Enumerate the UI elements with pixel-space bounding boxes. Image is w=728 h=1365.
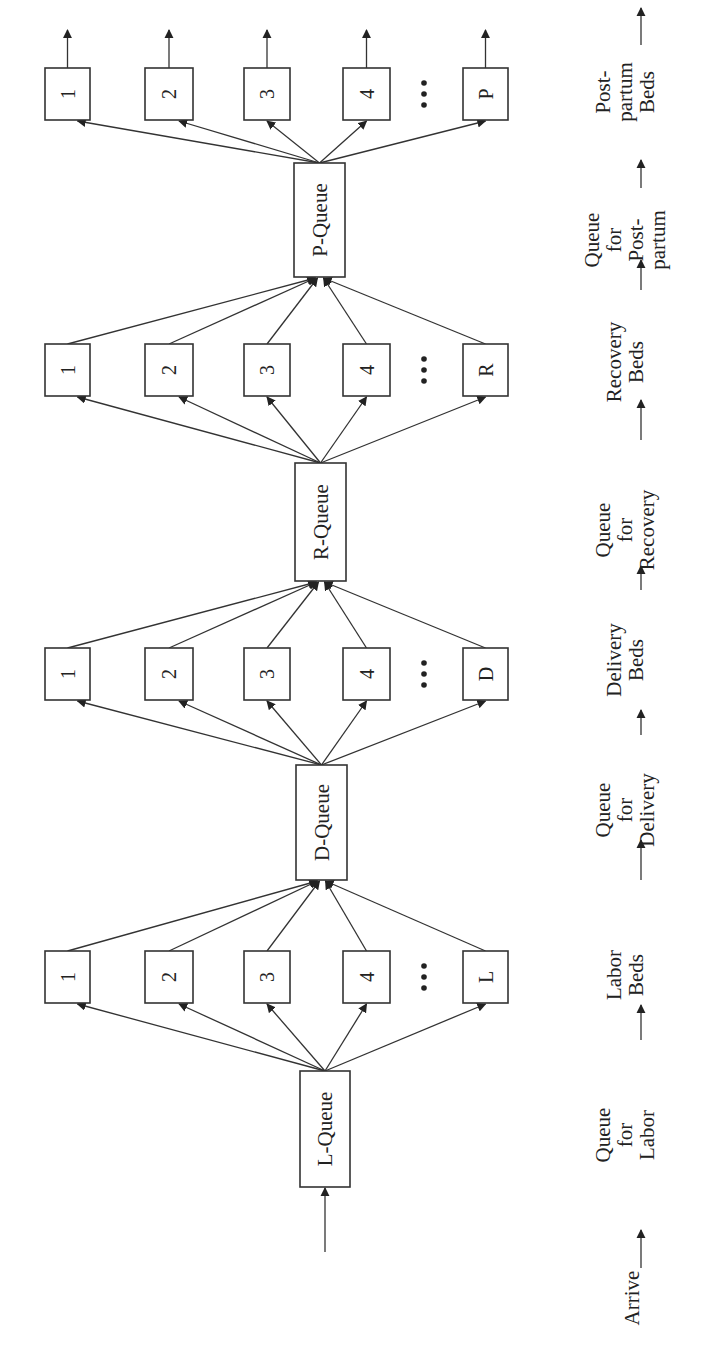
server-r-2: 2: [145, 344, 193, 396]
edge-server-3-to-dqueue: [267, 881, 320, 951]
queue-label: R-Queue: [309, 484, 333, 560]
server-label: 2: [158, 972, 180, 982]
flow-label-line: Post-: [624, 218, 648, 261]
server-l-4: 4: [343, 951, 390, 1003]
server-p-2: 2: [145, 68, 193, 120]
flow-label-4: DeliveryBeds: [602, 623, 648, 697]
r-queue-box: R-Queue: [295, 463, 346, 581]
server-l-L: L: [463, 951, 508, 1003]
flow-label-line: Recovery: [602, 321, 626, 402]
edge-rqueue-to-server-R: [321, 397, 486, 463]
server-label: 2: [158, 365, 180, 375]
server-label: R: [475, 363, 497, 377]
server-label: 4: [356, 972, 378, 982]
flow-label-line: Recovery: [635, 489, 659, 570]
edge-server-3-to-rqueue: [267, 582, 319, 648]
edge-dqueue-to-server-4: [322, 701, 367, 765]
server-d-2: 2: [145, 648, 193, 700]
ellipsis-icon: [421, 660, 427, 688]
flow-label-line: Labor: [602, 950, 626, 1000]
nodes-layer: 1234PP-Queue1234RR-Queue1234DD-Queue1234…: [45, 68, 508, 1187]
edge-pqueue-to-server-3: [267, 121, 320, 163]
flow-label-3: QueueforDelivery: [591, 773, 659, 847]
ellipsis-icon: [421, 356, 427, 384]
server-label: 4: [356, 89, 378, 99]
server-label: 2: [158, 89, 180, 99]
server-d-4: 4: [343, 648, 390, 700]
server-label: 1: [57, 972, 79, 982]
flow-label-6: RecoveryBeds: [602, 321, 648, 402]
server-l-1: 1: [45, 951, 90, 1003]
l-queue-box: L-Queue: [300, 1071, 350, 1187]
edge-server-4-to-pqueue: [324, 278, 367, 344]
flow-label-line: Arrive: [620, 1271, 644, 1326]
server-label: 1: [57, 365, 79, 375]
flow-label-line: Queue: [591, 783, 615, 838]
server-label: 3: [256, 365, 278, 375]
server-r-3: 3: [244, 344, 290, 396]
flow-label-line: Post-: [591, 70, 615, 113]
flow-label-8: Post-partumBeds: [591, 62, 659, 121]
server-l-3: 3: [244, 951, 290, 1003]
queue-label: P-Queue: [308, 183, 332, 256]
ellipsis-icon: [421, 80, 427, 108]
server-d-1: 1: [45, 648, 90, 700]
ellipsis-icon: [421, 963, 427, 991]
flow-label-2: LaborBeds: [602, 950, 648, 1000]
edge-server-R-to-pqueue: [324, 278, 486, 344]
server-d-D: D: [463, 648, 508, 700]
server-label: 4: [356, 365, 378, 375]
queue-label: D-Queue: [310, 784, 334, 861]
server-p-1: 1: [45, 68, 90, 120]
server-d-3: 3: [244, 648, 290, 700]
flow-label-line: Beds: [624, 954, 648, 996]
queueing-network-diagram: 1234PP-Queue1234RR-Queue1234DD-Queue1234…: [0, 0, 728, 1365]
flow-label-line: Beds: [624, 341, 648, 383]
flow-label-line: Beds: [635, 71, 659, 113]
edge-server-L-to-dqueue: [326, 881, 486, 951]
edge-server-4-to-dqueue: [326, 881, 367, 951]
queue-label: L-Queue: [313, 1092, 337, 1167]
edge-rqueue-to-server-3: [267, 397, 321, 463]
edge-dqueue-to-server-D: [322, 701, 486, 765]
server-label: 3: [256, 972, 278, 982]
flow-label-7: QueueforPost-partum: [580, 210, 670, 269]
edge-lqueue-to-server-L: [325, 1004, 486, 1071]
p-queue-box: P-Queue: [294, 163, 345, 277]
flow-label-line: for: [613, 518, 637, 543]
flow-label-line: partum: [613, 62, 637, 121]
server-r-4: 4: [343, 344, 390, 396]
flow-label-line: Queue: [580, 213, 604, 268]
edge-pqueue-to-server-P: [320, 121, 486, 163]
server-p-4: 4: [343, 68, 390, 120]
edge-server-4-to-rqueue: [325, 582, 367, 648]
edges-layer: [68, 30, 486, 1252]
flow-label-line: Queue: [591, 1108, 615, 1163]
server-label: 4: [356, 669, 378, 679]
server-l-2: 2: [145, 951, 193, 1003]
server-label: D: [475, 667, 497, 681]
edge-server-D-to-rqueue: [325, 582, 486, 648]
server-label: P: [475, 88, 497, 99]
flow-label-line: for: [613, 798, 637, 823]
flow-label-0: Arrive: [620, 1271, 644, 1326]
flow-label-line: for: [613, 1123, 637, 1148]
server-label: 3: [256, 89, 278, 99]
server-r-R: R: [463, 344, 508, 396]
server-p-3: 3: [244, 68, 290, 120]
flow-label-5: QueueforRecovery: [591, 489, 659, 570]
flow-labels-layer: ArriveQueueforLaborLaborBedsQueueforDeli…: [580, 8, 670, 1325]
server-label: 3: [256, 669, 278, 679]
flow-label-line: Labor: [635, 1110, 659, 1160]
flow-label-line: Beds: [624, 639, 648, 681]
flow-label-line: Delivery: [602, 623, 626, 697]
d-queue-box: D-Queue: [296, 765, 347, 880]
flow-label-1: QueueforLabor: [591, 1108, 659, 1163]
server-label: L: [475, 971, 497, 983]
server-label: 1: [57, 669, 79, 679]
server-r-1: 1: [45, 344, 90, 396]
edge-lqueue-to-server-4: [325, 1004, 367, 1071]
flow-label-line: for: [602, 228, 626, 253]
server-p-P: P: [463, 68, 508, 120]
flow-label-line: partum: [646, 210, 670, 269]
